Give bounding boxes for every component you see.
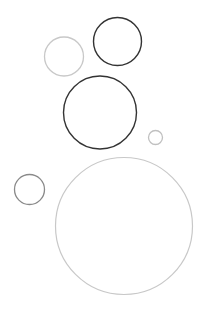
circle-top-dark bbox=[94, 18, 142, 66]
circle-diagram-canvas bbox=[0, 0, 204, 314]
circle-small-left bbox=[15, 175, 45, 205]
circles-svg bbox=[0, 0, 204, 314]
circle-large-light bbox=[56, 158, 193, 295]
circle-small-right bbox=[149, 131, 163, 145]
circle-top-left-light bbox=[45, 37, 84, 76]
circle-middle-dark bbox=[64, 76, 137, 149]
